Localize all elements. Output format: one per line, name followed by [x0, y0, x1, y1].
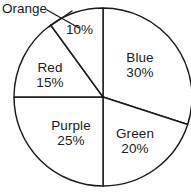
pie-label-green-name: Green [104, 126, 166, 141]
pie-label-purple-value: 25% [38, 133, 104, 148]
pie-label-green: Green 20% [104, 126, 166, 156]
pie-label-purple-name: Purple [38, 118, 104, 133]
pie-label-orange-value: 10% [66, 22, 93, 37]
pie-label-blue-value: 30% [112, 65, 168, 80]
pie-label-red: Red 15% [24, 60, 76, 90]
pie-chart-canvas [0, 0, 191, 194]
pie-label-orange-name: Orange [2, 1, 47, 16]
pie-label-green-value: 20% [104, 141, 166, 156]
pie-chart: Blue 30% Green 20% Purple 25% Red 15% Or… [0, 0, 191, 194]
pie-label-blue: Blue 30% [112, 50, 168, 80]
pie-label-red-name: Red [24, 60, 76, 75]
pie-label-purple: Purple 25% [38, 118, 104, 148]
pie-label-blue-name: Blue [112, 50, 168, 65]
pie-label-red-value: 15% [24, 75, 76, 90]
